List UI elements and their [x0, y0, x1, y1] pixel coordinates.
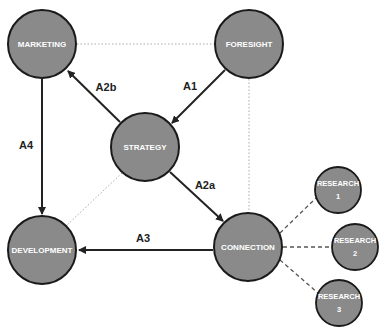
node-development: DEVELOPMENT [8, 216, 76, 284]
process-diagram: A1 A2b A2a A4 A3 MARKETING FORESIGHT STR… [0, 0, 385, 334]
arrow-a1 [172, 70, 225, 123]
edge-label-a2b: A2b [96, 81, 117, 93]
dashed-link-connection-research3 [280, 260, 318, 293]
node-label-foresight: FORESIGHT [226, 40, 273, 49]
node-label-research-2-line2: 2 [353, 249, 357, 258]
node-research-2: RESEARCH 2 [332, 224, 378, 270]
node-strategy: STRATEGY [111, 113, 179, 181]
node-research-1: RESEARCH 1 [315, 167, 361, 213]
edge-label-a3: A3 [136, 232, 150, 244]
edge-label-a2a: A2a [195, 179, 216, 191]
node-label-connection: CONNECTION [221, 243, 275, 252]
node-label-research-1-line1: RESEARCH [317, 179, 359, 188]
node-marketing: MARKETING [8, 10, 76, 78]
node-research-3: RESEARCH 3 [316, 280, 362, 326]
edge-label-a4: A4 [19, 139, 34, 151]
dotted-link-strategy-development [66, 173, 122, 226]
node-label-research-2-line1: RESEARCH [334, 236, 376, 245]
node-label-research-1-line2: 1 [336, 192, 340, 201]
node-label-research-3-line1: RESEARCH [318, 292, 360, 301]
node-foresight: FORESIGHT [215, 10, 283, 78]
dashed-link-connection-research1 [280, 198, 316, 233]
node-label-research-3-line2: 3 [337, 305, 341, 314]
node-label-strategy: STRATEGY [124, 143, 168, 152]
node-connection: CONNECTION [214, 213, 282, 281]
node-label-development: DEVELOPMENT [12, 246, 73, 255]
arrow-a2b [68, 71, 120, 122]
node-label-marketing: MARKETING [18, 40, 66, 49]
edge-label-a1: A1 [183, 80, 197, 92]
